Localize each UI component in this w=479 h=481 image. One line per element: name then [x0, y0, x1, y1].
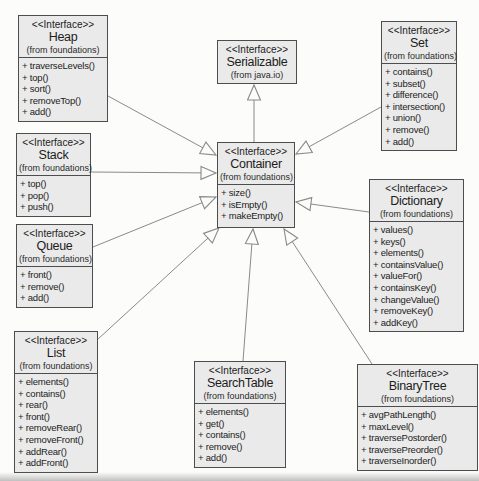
- package-label: (from java.io): [220, 70, 294, 80]
- node-dictionary-header: <<Interface>> Dictionary (from foundatio…: [370, 180, 463, 221]
- method-item: + front(): [20, 269, 91, 281]
- method-item: + intersection(): [385, 101, 455, 113]
- package-label: (from foundations): [19, 163, 88, 173]
- node-dictionary: <<Interface>> Dictionary (from foundatio…: [369, 179, 464, 332]
- method-item: + maxLevel(): [361, 421, 476, 433]
- edge-queue-container: [93, 197, 216, 247]
- package-label: (from foundations): [197, 391, 283, 401]
- interface-name: Set: [384, 36, 454, 51]
- method-item: + rear(): [18, 399, 96, 411]
- method-item: + traverseInorder(): [361, 455, 476, 467]
- methods-list: + avgPathLength()+ maxLevel()+ traverseP…: [358, 406, 477, 470]
- package-label: (from foundations): [17, 361, 95, 371]
- method-item: + get(): [198, 418, 284, 430]
- node-stack: <<Interface>> Stack (from foundations) +…: [16, 133, 91, 217]
- node-heap: <<Interface>> Heap (from foundations) + …: [18, 15, 108, 122]
- method-item: + union(): [385, 112, 455, 124]
- method-item: + valueFor(): [373, 270, 462, 282]
- edge-stack-container: [91, 172, 216, 173]
- method-item: + elements(): [373, 247, 462, 259]
- methods-list: + size()+ isEmpty()+ makeEmpty(): [218, 184, 294, 225]
- methods-list: + elements()+ get()+ contains()+ remove(…: [195, 403, 285, 467]
- node-list-header: <<Interface>> List (from foundations): [15, 332, 97, 373]
- method-item: + keys(): [373, 236, 462, 248]
- edge-heap-container: [108, 96, 216, 155]
- method-item: + top(): [22, 72, 106, 84]
- package-label: (from foundations): [21, 45, 105, 55]
- stereotype-label: <<Interface>>: [220, 44, 294, 55]
- interface-name: SearchTable: [197, 376, 283, 391]
- method-item: + traversePostorder(): [361, 432, 476, 444]
- method-item: + traversePreorder(): [361, 444, 476, 456]
- methods-list: + top()+ pop()+ push(): [17, 175, 90, 216]
- method-item: + makeEmpty(): [221, 210, 293, 222]
- method-item: + add(): [22, 106, 106, 118]
- interface-name: Heap: [21, 30, 105, 45]
- node-container-header: <<Interface>> Container (from foundation…: [218, 143, 294, 184]
- interface-name: Serializable: [220, 55, 294, 70]
- node-queue-header: <<Interface>> Queue (from foundations): [17, 225, 92, 266]
- method-item: + removeFront(): [18, 434, 96, 446]
- method-item: + isEmpty(): [221, 199, 293, 211]
- package-label: (from foundations): [19, 254, 90, 264]
- method-item: + add(): [20, 292, 91, 304]
- interface-name: List: [17, 346, 95, 361]
- package-label: (from foundations): [220, 172, 292, 182]
- stereotype-label: <<Interface>>: [197, 365, 283, 376]
- package-label: (from foundations): [384, 51, 454, 61]
- method-item: + contains(): [18, 388, 96, 400]
- interface-name: Dictionary: [372, 194, 461, 209]
- interface-name: Stack: [19, 148, 88, 163]
- method-item: + removeKey(): [373, 305, 462, 317]
- method-item: + removeRear(): [18, 422, 96, 434]
- node-list: <<Interface>> List (from foundations) + …: [14, 331, 98, 473]
- method-item: + add(): [385, 136, 455, 148]
- stereotype-label: <<Interface>>: [360, 368, 475, 379]
- node-searchtable-header: <<Interface>> SearchTable (from foundati…: [195, 362, 285, 403]
- method-item: + remove(): [198, 441, 284, 453]
- method-item: + difference(): [385, 89, 455, 101]
- node-serializable-header: <<Interface>> Serializable (from java.io…: [218, 41, 296, 82]
- node-container: <<Interface>> Container (from foundation…: [217, 142, 295, 228]
- uml-interface-diagram: <<Interface>> Heap (from foundations) + …: [0, 0, 479, 481]
- stereotype-label: <<Interface>>: [17, 335, 95, 346]
- edge-list-container: [97, 228, 219, 340]
- stereotype-label: <<Interface>>: [220, 146, 292, 157]
- stereotype-label: <<Interface>>: [19, 137, 88, 148]
- method-item: + containsValue(): [373, 259, 462, 271]
- methods-list: + front()+ remove()+ add(): [17, 266, 92, 307]
- stereotype-label: <<Interface>>: [372, 183, 461, 194]
- method-item: + sort(): [22, 83, 106, 95]
- edge-searchtable-container: [243, 229, 253, 361]
- node-queue: <<Interface>> Queue (from foundations) +…: [16, 224, 93, 308]
- method-item: + elements(): [18, 376, 96, 388]
- interface-name: Queue: [19, 239, 90, 254]
- stereotype-label: <<Interface>>: [384, 25, 454, 36]
- edge-set-container: [296, 107, 381, 154]
- node-set-header: <<Interface>> Set (from foundations): [382, 22, 456, 63]
- method-item: + addKey(): [373, 317, 462, 329]
- method-item: + changeValue(): [373, 294, 462, 306]
- stereotype-label: <<Interface>>: [21, 19, 105, 30]
- method-item: + size(): [221, 187, 293, 199]
- methods-list: + values()+ keys()+ elements()+ contains…: [370, 221, 463, 331]
- node-binarytree-header: <<Interface>> BinaryTree (from foundatio…: [358, 365, 477, 406]
- method-item: + addRear(): [18, 446, 96, 458]
- methods-list: + traverseLevels()+ top()+ sort()+ remov…: [19, 57, 107, 121]
- method-item: + front(): [18, 411, 96, 423]
- method-item: + contains(): [385, 66, 455, 78]
- method-item: + elements(): [198, 406, 284, 418]
- method-item: + remove(): [385, 124, 455, 136]
- method-item: + remove(): [20, 281, 91, 293]
- method-item: + values(): [373, 224, 462, 236]
- stereotype-label: <<Interface>>: [19, 228, 90, 239]
- method-item: + containsKey(): [373, 282, 462, 294]
- methods-list: + elements()+ contains()+ rear()+ front(…: [15, 373, 97, 472]
- method-item: + subset(): [385, 78, 455, 90]
- method-item: + avgPathLength(): [361, 409, 476, 421]
- method-item: + add(): [198, 452, 284, 464]
- node-heap-header: <<Interface>> Heap (from foundations): [19, 16, 107, 57]
- method-item: + addFront(): [18, 457, 96, 469]
- methods-list: + contains()+ subset()+ difference()+ in…: [382, 63, 456, 150]
- node-set: <<Interface>> Set (from foundations) + c…: [381, 21, 457, 151]
